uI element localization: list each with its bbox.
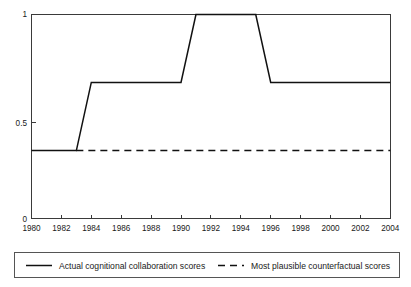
x-tick-label-1982: 1982	[52, 224, 71, 233]
y-tick-label-1: 1	[22, 10, 27, 19]
x-tick-label-1992: 1992	[202, 224, 221, 233]
y-tick-label-0_5: 0.5	[16, 119, 28, 128]
x-tick-label-1990: 1990	[172, 224, 191, 233]
legend-label-actual: Actual cognitional collaboration scores	[59, 261, 205, 271]
series-line-actual	[32, 15, 391, 151]
chart-legend: Actual cognitional collaboration scores …	[15, 253, 400, 278]
y-axis-ticks	[32, 15, 36, 219]
chart-figure: 1 0.5 0 1980 1982 1984 1986 1988 1990 19…	[0, 0, 411, 287]
x-tick-label-1986: 1986	[112, 224, 131, 233]
x-tick-label-1998: 1998	[291, 224, 310, 233]
legend-label-counterfactual: Most plausible counterfactual scores	[251, 261, 390, 271]
x-tick-label-1994: 1994	[232, 224, 251, 233]
x-tick-label-1996: 1996	[262, 224, 281, 233]
x-tick-label-2000: 2000	[321, 224, 340, 233]
x-tick-label-2004: 2004	[381, 224, 400, 233]
x-tick-label-2002: 2002	[351, 224, 370, 233]
x-tick-label-1984: 1984	[82, 224, 101, 233]
line-chart: 1 0.5 0 1980 1982 1984 1986 1988 1990 19…	[0, 0, 411, 287]
x-tick-label-1988: 1988	[142, 224, 161, 233]
x-tick-label-1980: 1980	[22, 224, 41, 233]
y-tick-label-0: 0	[22, 215, 27, 224]
x-tick-labels: 1980 1982 1984 1986 1988 1990 1992 1994 …	[22, 224, 399, 233]
plot-frame	[32, 15, 391, 219]
x-axis-ticks	[32, 215, 391, 219]
